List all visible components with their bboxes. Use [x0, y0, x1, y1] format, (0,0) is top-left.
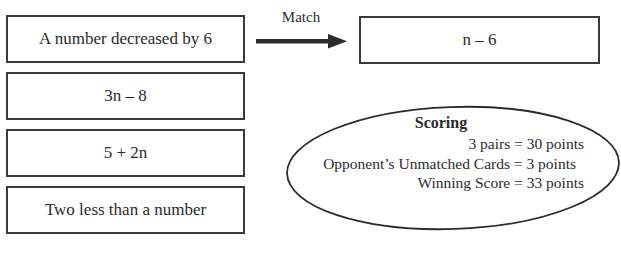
scoring-title: Scoring: [400, 114, 482, 132]
card-text: 5 + 2n: [104, 143, 148, 163]
arrow-shaft: [256, 39, 330, 44]
matched-card[interactable]: n – 6: [359, 16, 600, 64]
right-arrow-icon: [254, 32, 350, 50]
expression-card-3[interactable]: 5 + 2n: [6, 129, 245, 177]
card-text: Two less than a number: [45, 200, 206, 220]
expression-card-4[interactable]: Two less than a number: [6, 186, 245, 234]
card-text: A number decreased by 6: [39, 29, 212, 49]
arrow-head: [328, 34, 347, 49]
scoring-line-winning: Winning Score = 33 points: [417, 174, 584, 192]
scoring-line-pairs: 3 pairs = 30 points: [468, 135, 584, 153]
card-text: n – 6: [463, 30, 497, 50]
match-label: Match: [268, 9, 334, 26]
expression-card-2[interactable]: 3n – 8: [6, 72, 245, 120]
scoring-line-unmatched: Opponent’s Unmatched Cards = 3 points: [323, 155, 576, 173]
card-text: 3n – 8: [104, 86, 147, 106]
clipped-heading: [0, 0, 260, 4]
expression-card-1[interactable]: A number decreased by 6: [6, 15, 245, 63]
